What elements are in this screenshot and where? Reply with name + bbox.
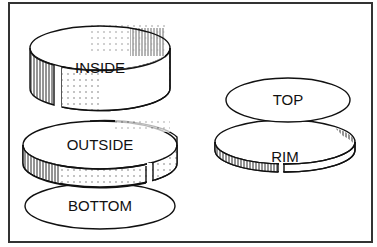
top-disc: TOP: [226, 78, 350, 122]
label-inside: INSIDE: [75, 59, 125, 76]
label-bottom: BOTTOM: [68, 197, 132, 214]
outside-ring: OUTSIDE: [23, 113, 177, 188]
label-rim: RIM: [271, 148, 299, 165]
inside-ring: INSIDE: [30, 24, 170, 111]
label-top: TOP: [273, 91, 304, 108]
bottom-disc: BOTTOM: [25, 183, 175, 229]
label-outside: OUTSIDE: [67, 136, 134, 153]
diagram-canvas: BOTTOM OUTSIDE IN: [0, 0, 377, 247]
rim-ring: RIM: [215, 120, 355, 175]
